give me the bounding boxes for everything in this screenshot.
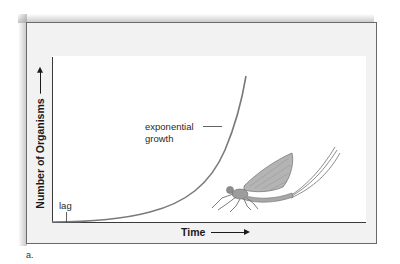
- exponential-annotation-line2: growth: [145, 133, 194, 145]
- exponential-annotation-line1: exponential: [145, 121, 194, 133]
- y-axis-label-text: Number of Organisms: [34, 98, 46, 208]
- x-axis-label-text: Time: [181, 226, 205, 238]
- x-axis-arrow-icon: [211, 232, 245, 233]
- exponential-curve: [52, 76, 246, 222]
- figure-panel-a: Number of Organisms Time exponential gro…: [0, 0, 400, 264]
- y-axis-arrow-icon: [40, 71, 41, 93]
- mayfly-illustration: [212, 147, 340, 212]
- lag-annotation: lag: [59, 200, 72, 212]
- panel-label: a.: [26, 250, 34, 260]
- x-axis-label: Time: [181, 226, 245, 238]
- exponential-growth-annotation: exponential growth: [145, 121, 194, 145]
- growth-chart: [0, 0, 400, 264]
- y-axis-label: Number of Organisms: [34, 71, 46, 208]
